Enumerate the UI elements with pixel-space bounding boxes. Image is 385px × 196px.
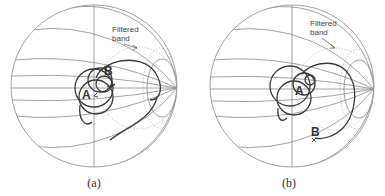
- caption-a: (a): [64, 176, 124, 191]
- filtered-band-label-line2: band: [112, 34, 130, 43]
- filtered-band-label-line1: Filtered: [310, 19, 337, 28]
- smith-chart-a-graphic: B A Filtered band: [0, 0, 192, 196]
- marker-a-label: A: [295, 84, 304, 98]
- caption-b: (b): [259, 176, 319, 191]
- marker-a-arrow-icon: [94, 93, 98, 97]
- marker-a-label: A: [82, 88, 91, 102]
- filtered-band-label-line2: band: [310, 28, 328, 37]
- smith-chart-b: A B Filtered band (b): [193, 0, 385, 196]
- filtered-band-arrow-icon: [322, 38, 335, 48]
- marker-b-label: B: [311, 125, 320, 139]
- smith-chart-b-graphic: A B Filtered band: [193, 0, 385, 196]
- filtered-band-label-line1: Filtered: [112, 25, 139, 34]
- smith-chart-a: B A Filtered band (a): [0, 0, 192, 196]
- marker-b-label: B: [104, 64, 113, 78]
